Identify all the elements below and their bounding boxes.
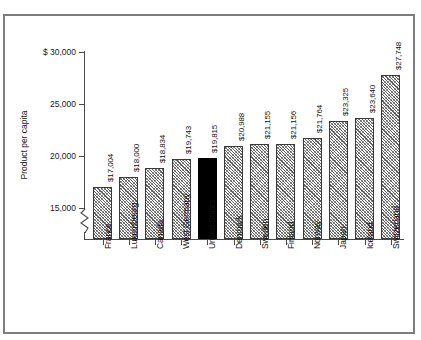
- x-axis-category-label-text: Luxembourg: [129, 203, 139, 249]
- bar-value-label: $21,155: [263, 111, 272, 139]
- bar-value-label: $21,764: [315, 104, 324, 132]
- bar-iceland[interactable]: $23,640: [355, 118, 374, 239]
- bar-value-label: $23,325: [341, 88, 350, 116]
- bar-value-label: $19,815: [210, 125, 219, 153]
- y-axis-tick: [79, 208, 85, 209]
- x-axis-category-label-text: Finland: [286, 222, 296, 249]
- x-axis-category-label-text: Denmark: [234, 215, 244, 249]
- bar-value-label: $18,834: [158, 135, 167, 163]
- x-axis-category-label-text: United States: [207, 199, 217, 249]
- x-axis-category-label-text: Iceland: [365, 222, 375, 249]
- y-axis-tick-label-text: 25,000: [22, 99, 76, 109]
- bar-value-label: $19,743: [184, 125, 193, 153]
- y-axis-tick-label-text: 15,000: [22, 203, 76, 213]
- bar-chart-plot: Product per capita $ 30,00025,00020,0001…: [0, 0, 421, 340]
- x-axis-category-label-text: Norway: [312, 221, 322, 249]
- y-axis-tick-label-text: $ 30,000: [22, 47, 76, 57]
- bar-value-label: $21,156: [289, 111, 298, 139]
- bar-value-label: $27,748: [394, 42, 403, 70]
- bar-value-label: $17,004: [106, 154, 115, 182]
- bar-value-label: $18,000: [132, 144, 141, 172]
- y-axis-tick-label: 25,000: [18, 99, 76, 109]
- x-axis-category-label-text: Switzerland: [391, 206, 401, 249]
- axis-break-zigzag-icon: [77, 209, 93, 233]
- x-axis-category-label-text: West Germany: [181, 194, 191, 249]
- bar-value-label: $20,988: [237, 113, 246, 141]
- y-axis-tick-label: $ 30,000: [18, 47, 76, 57]
- y-axis-tick-label-text: 20,000: [22, 151, 76, 161]
- y-axis-line: [84, 51, 85, 210]
- x-axis-category-label-text: Japan: [338, 226, 348, 249]
- y-axis-tick-label: 20,000: [18, 151, 76, 161]
- y-axis-tick-label: 15,000: [18, 203, 76, 213]
- bar-japan[interactable]: $23,325: [329, 121, 348, 239]
- y-axis-tick: [79, 52, 85, 53]
- x-axis-category-label-text: Canada: [155, 220, 165, 249]
- x-axis-category-label-text: France: [103, 223, 113, 249]
- x-axis-category-label-text: Sweden: [260, 219, 270, 249]
- y-axis-tick: [79, 104, 85, 105]
- y-axis-tick: [79, 156, 85, 157]
- bar-value-label: $23,640: [368, 85, 377, 113]
